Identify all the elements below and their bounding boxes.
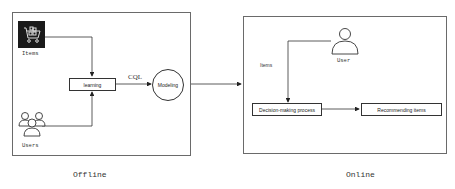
items-icon [18,21,45,48]
items-edge-label: Items [260,62,272,68]
online-title: Online [346,170,375,179]
offline-title: Offline [73,170,107,179]
user-label: User [337,57,350,64]
items-label: Items [22,50,39,57]
recommending-items-node: Recommending items [361,103,442,116]
decision-making-node: Decision-making process [252,103,322,116]
users-label: Users [22,142,39,149]
user-icon [331,27,359,55]
users-icon [18,111,46,141]
learning-node: learning [69,78,116,91]
modeling-node: Modeling [152,69,184,101]
cql-edge-label: CQL [128,73,142,81]
